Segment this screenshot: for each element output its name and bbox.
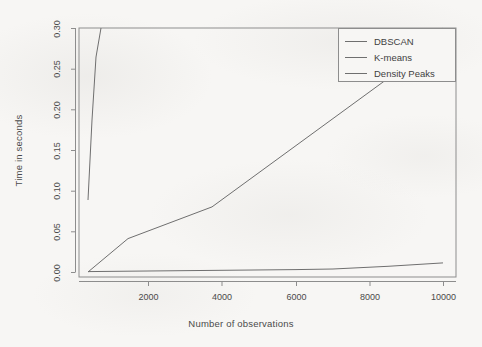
chart-figure: 2000 4000 6000 8000 10000 0.00 0.05 0.10…: [0, 0, 482, 347]
legend-entry-dbscan: DBSCAN: [345, 33, 414, 49]
line-dash-icon: [345, 73, 367, 74]
y-tick-label-000: 0.00: [52, 264, 62, 282]
legend-label-dbscan: DBSCAN: [374, 36, 414, 47]
y-tick-label-010: 0.10: [52, 182, 62, 200]
y-tick-label-020: 0.20: [52, 101, 62, 119]
line-dash-icon: [345, 41, 367, 42]
x-tick-label-10000: 10000: [431, 292, 456, 302]
y-axis-title: Time in seconds: [13, 96, 24, 206]
y-tick-label-025: 0.25: [52, 60, 62, 78]
legend-entry-density-peaks: Density Peaks: [345, 65, 435, 81]
chart-legend: DBSCAN K-means Density Peaks: [338, 28, 456, 82]
legend-label-density-peaks: Density Peaks: [374, 68, 435, 79]
x-tick-label-4000: 4000: [212, 292, 232, 302]
legend-entry-kmeans: K-means: [345, 49, 412, 65]
y-axis: [71, 28, 76, 273]
legend-label-kmeans: K-means: [374, 52, 412, 63]
x-tick-label-2000: 2000: [138, 292, 158, 302]
x-tick-label-6000: 6000: [286, 292, 306, 302]
y-tick-label-030: 0.30: [52, 20, 62, 38]
y-tick-label-015: 0.15: [52, 142, 62, 160]
series-line-dbscan: [88, 263, 443, 272]
x-axis-title: Number of observations: [0, 318, 482, 329]
x-tick-label-8000: 8000: [360, 292, 380, 302]
series-line-density-peaks: [88, 28, 101, 200]
x-axis: [79, 282, 456, 287]
line-dash-icon: [345, 57, 367, 58]
y-tick-label-005: 0.05: [52, 223, 62, 241]
